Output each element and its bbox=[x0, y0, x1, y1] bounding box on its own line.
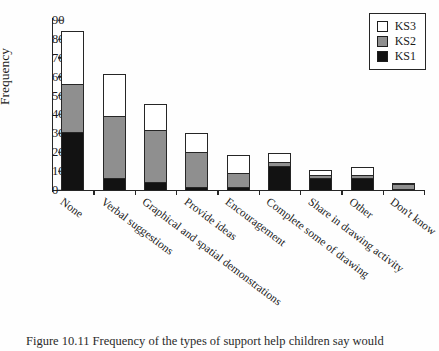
x-tick-mark bbox=[424, 190, 425, 195]
legend-swatch-ks2 bbox=[377, 36, 388, 47]
x-axis-label: Share in drawing activity bbox=[306, 196, 406, 275]
x-tick-mark bbox=[93, 190, 94, 195]
legend-label-ks1: KS1 bbox=[395, 49, 416, 64]
bar-stack bbox=[227, 155, 250, 190]
x-axis-label: Verbal suggestions bbox=[99, 196, 175, 257]
bar-segment-ks1 bbox=[61, 132, 84, 191]
x-tick-mark bbox=[383, 190, 384, 195]
bar-segment-ks2 bbox=[144, 130, 167, 183]
x-tick-mark bbox=[341, 190, 342, 195]
bar-segment-ks1 bbox=[103, 178, 126, 191]
bar-segment-ks1 bbox=[309, 178, 332, 191]
bar-segment-ks1 bbox=[392, 189, 415, 191]
x-axis-label: Other bbox=[347, 196, 375, 221]
legend-label-ks2: KS2 bbox=[395, 34, 416, 49]
bar-segment-ks1 bbox=[144, 182, 167, 191]
bar-stack bbox=[61, 31, 84, 190]
x-tick-mark bbox=[176, 190, 177, 195]
x-axis-label: Provide ideas bbox=[182, 196, 239, 243]
legend-item: KS1 bbox=[377, 49, 416, 64]
bar-segment-ks2 bbox=[61, 84, 84, 133]
bar-segment-ks1 bbox=[227, 187, 250, 191]
bar-segment-ks3 bbox=[144, 104, 167, 130]
legend-item: KS2 bbox=[377, 34, 416, 49]
x-axis-label: Encouragement bbox=[223, 196, 288, 249]
figure-caption: Figure 10.11 Frequency of the types of s… bbox=[26, 334, 426, 349]
legend-swatch-ks1 bbox=[377, 51, 388, 62]
bar-segment-ks3 bbox=[103, 74, 126, 117]
bar-segment-ks3 bbox=[185, 133, 208, 154]
x-axis-label: Complete some of drawing bbox=[264, 196, 371, 280]
bar-stack bbox=[103, 74, 126, 190]
bar-segment-ks3 bbox=[227, 155, 250, 174]
x-axis-label: Don't know bbox=[388, 196, 438, 237]
x-tick-mark bbox=[300, 190, 301, 195]
bar-segment-ks1 bbox=[268, 166, 291, 191]
x-tick-mark bbox=[217, 190, 218, 195]
bar-segment-ks1 bbox=[351, 178, 374, 191]
bar-stack bbox=[309, 170, 332, 190]
legend-item: KS3 bbox=[377, 19, 416, 34]
legend-swatch-ks3 bbox=[377, 21, 388, 32]
legend-label-ks3: KS3 bbox=[395, 19, 416, 34]
bar-segment-ks2 bbox=[103, 116, 126, 178]
bar-stack bbox=[144, 104, 167, 190]
bar-segment-ks3 bbox=[61, 31, 84, 86]
bar-stack bbox=[268, 153, 291, 190]
bar-stack bbox=[392, 183, 415, 190]
bar-segment-ks2 bbox=[185, 152, 208, 188]
x-tick-mark bbox=[135, 190, 136, 195]
x-axis-label: Graphical and spatial demonstrations bbox=[140, 196, 283, 308]
legend: KS3 KS2 KS1 bbox=[369, 13, 426, 70]
bar-stack bbox=[351, 167, 374, 190]
x-tick-mark bbox=[259, 190, 260, 195]
y-axis-title: Frequency bbox=[0, 48, 13, 105]
x-axis-label: None bbox=[58, 196, 85, 220]
bar-segment-ks1 bbox=[185, 187, 208, 191]
bar-stack bbox=[185, 133, 208, 190]
bar-segment-ks2 bbox=[227, 173, 250, 188]
